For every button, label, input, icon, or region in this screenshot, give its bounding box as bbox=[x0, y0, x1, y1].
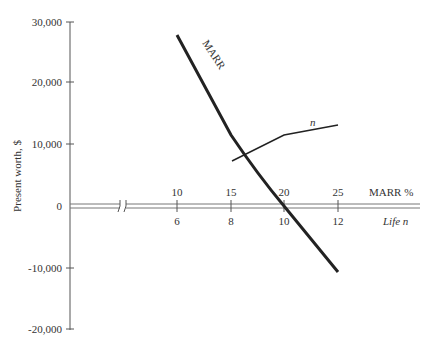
x-bottom-tick-label: 12 bbox=[333, 215, 344, 227]
x-bottom-tick-label: 10 bbox=[279, 215, 291, 227]
x-top-tick-label: 15 bbox=[226, 186, 238, 198]
n-series-label: n bbox=[310, 116, 316, 128]
x-top-axis-label: MARR % bbox=[369, 186, 413, 198]
y-axis-label: Present worth, $ bbox=[11, 140, 23, 212]
y-tick-label: -20,000 bbox=[28, 323, 62, 335]
x-bottom-tick-label: 6 bbox=[174, 215, 180, 227]
x-bottom-tick-label: 8 bbox=[228, 215, 234, 227]
chart: 30,000 20,000 10,000 0 -10,000 -20,000 P… bbox=[0, 0, 424, 347]
x-top-tick-label: 25 bbox=[333, 186, 345, 198]
x-axis bbox=[70, 204, 420, 208]
x-bottom-axis-label: Life n bbox=[382, 215, 409, 227]
y-tick-label: 0 bbox=[57, 200, 63, 212]
x-top-tick-label: 20 bbox=[279, 186, 291, 198]
y-tick-label: -10,000 bbox=[28, 262, 62, 274]
marr-series-line bbox=[177, 35, 338, 272]
x-top-tick-label: 10 bbox=[172, 186, 184, 198]
y-tick-label: 10,000 bbox=[32, 138, 63, 150]
n-series-line bbox=[232, 125, 338, 161]
axis-break-icon bbox=[118, 200, 126, 212]
marr-series-label: MARR bbox=[200, 38, 228, 72]
y-tick-label: 30,000 bbox=[32, 16, 63, 28]
y-tick-label: 20,000 bbox=[32, 76, 63, 88]
